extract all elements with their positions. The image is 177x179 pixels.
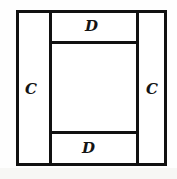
figure-canvas: D C C D: [0, 0, 177, 179]
vertical-divider-left: [49, 10, 52, 166]
horizontal-divider-top: [49, 41, 139, 44]
label-c-right: C: [146, 82, 158, 97]
label-d-bottom: D: [82, 141, 95, 156]
label-d-top: D: [85, 19, 98, 34]
paper-background: [0, 168, 177, 179]
label-c-left: C: [25, 82, 37, 97]
horizontal-divider-bottom: [49, 131, 139, 134]
vertical-divider-right: [136, 10, 139, 166]
